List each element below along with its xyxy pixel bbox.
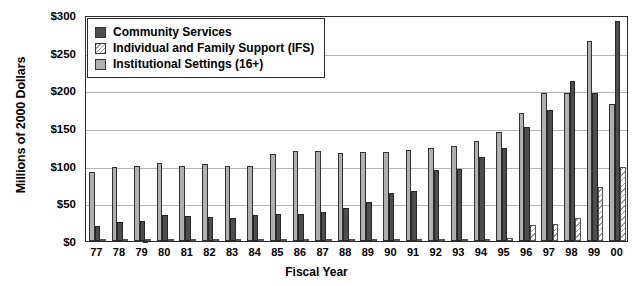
bar-comm (185, 216, 191, 241)
bar-ifs (236, 239, 242, 241)
x-tick-label: 94 (475, 246, 487, 258)
bar-comm (298, 214, 304, 241)
x-tick-label: 77 (90, 246, 102, 258)
bar-group (516, 17, 539, 241)
x-tick-label: 90 (384, 246, 396, 258)
bar-ifs (620, 167, 626, 241)
x-tick-label: 89 (362, 246, 374, 258)
x-tick-label: 99 (588, 246, 600, 258)
bar-ifs (168, 239, 174, 241)
bar-comm (389, 193, 395, 241)
x-tick-label: 92 (430, 246, 442, 258)
legend-swatch-ifs (95, 43, 106, 54)
bar-group (335, 17, 358, 241)
bar-comm (479, 157, 485, 241)
bar-ifs (281, 239, 287, 241)
bar-ifs (394, 239, 400, 241)
bar-group (471, 17, 494, 241)
bar-comm (230, 218, 236, 241)
legend-item: Individual and Family Support (IFS) (95, 40, 314, 56)
x-tick-label: 86 (294, 246, 306, 258)
bar-comm (570, 81, 576, 241)
bar-comm (434, 170, 440, 241)
legend-label: Institutional Settings (16+) (113, 57, 263, 71)
bar-comm (162, 215, 168, 241)
y-tick-mark (143, 242, 148, 243)
bar-ifs (349, 239, 355, 241)
bar-ifs (485, 239, 491, 241)
x-tick-label: 96 (520, 246, 532, 258)
bar-ifs (575, 218, 581, 241)
x-tick-label: 82 (203, 246, 215, 258)
bar-ifs (372, 239, 378, 241)
legend-item: Community Services (95, 24, 314, 40)
x-tick-label: 00 (611, 246, 623, 258)
bar-comm (321, 212, 327, 241)
x-axis-title: Fiscal Year (0, 265, 633, 279)
bar-comm (411, 191, 417, 241)
bar-group (606, 17, 629, 241)
bar-ifs (598, 187, 604, 241)
bar-group (539, 17, 562, 241)
x-tick-label: 80 (158, 246, 170, 258)
bar-ifs (145, 239, 151, 241)
legend-label: Individual and Family Support (IFS) (113, 41, 314, 55)
bar-comm (457, 169, 463, 241)
legend-label: Community Services (113, 25, 232, 39)
bar-group (425, 17, 448, 241)
y-tick-label: $250 (50, 48, 76, 60)
bar-ifs (213, 239, 219, 241)
bar-group (584, 17, 607, 241)
bar-ifs (191, 239, 197, 241)
bar-comm (208, 217, 214, 241)
x-tick-label: 87 (316, 246, 328, 258)
legend-swatch-comm (95, 27, 106, 38)
bar-comm (502, 148, 508, 241)
bar-group (448, 17, 471, 241)
x-tick-label: 98 (565, 246, 577, 258)
bar-comm (140, 221, 146, 241)
legend-swatch-inst (95, 59, 106, 70)
bar-group (358, 17, 381, 241)
bar-ifs (417, 239, 423, 241)
bar-group (493, 17, 516, 241)
bar-ifs (258, 239, 264, 241)
x-tick-label: 85 (271, 246, 283, 258)
bar-group (561, 17, 584, 241)
x-tick-label: 97 (543, 246, 555, 258)
legend-item: Institutional Settings (16+) (95, 56, 314, 72)
bar-ifs (100, 239, 106, 241)
x-tick-label: 91 (407, 246, 419, 258)
bar-ifs (304, 239, 310, 241)
x-tick-label: 84 (249, 246, 261, 258)
bar-comm (547, 110, 553, 241)
y-tick-label: $200 (50, 85, 76, 97)
bar-chart: Millions of 2000 Dollars $0$50$100$150$2… (0, 0, 633, 286)
x-tick-label: 95 (497, 246, 509, 258)
x-tick-label: 83 (226, 246, 238, 258)
bar-ifs (507, 238, 513, 241)
bar-ifs (462, 239, 468, 241)
x-tick-label: 81 (181, 246, 193, 258)
y-tick-label: $150 (50, 123, 76, 135)
y-axis-title: Millions of 2000 Dollars (14, 10, 28, 240)
x-tick-label: 78 (113, 246, 125, 258)
bar-ifs (326, 239, 332, 241)
bar-comm (276, 214, 282, 241)
bar-comm (253, 215, 259, 241)
bar-comm (366, 202, 372, 241)
bar-group (380, 17, 403, 241)
y-tick-label: $100 (50, 161, 76, 173)
y-tick-label: $0 (63, 236, 76, 248)
chart-legend: Community ServicesIndividual and Family … (87, 18, 325, 78)
bar-ifs (553, 224, 559, 241)
x-tick-label: 79 (135, 246, 147, 258)
bar-comm (343, 208, 349, 241)
bar-comm (524, 127, 530, 242)
bar-ifs (530, 225, 536, 241)
bar-group (403, 17, 426, 241)
x-tick-label: 93 (452, 246, 464, 258)
x-tick-label: 88 (339, 246, 351, 258)
y-tick-label: $300 (50, 10, 76, 22)
y-tick-label: $50 (57, 198, 76, 210)
